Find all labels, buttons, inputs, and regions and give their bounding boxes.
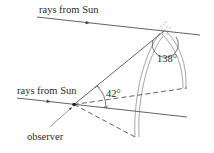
- top-sun-ray: [37, 17, 200, 35]
- top-rays-label: rays from Sun: [39, 4, 99, 15]
- bottom-rays-label: rays from Sun: [17, 85, 77, 96]
- bottom-sun-ray: [17, 98, 187, 117]
- dashed-line-to-arc-bottom: [74, 105, 137, 139]
- angle-42-label: 42°: [106, 88, 121, 99]
- angle-138-label: 138°: [157, 53, 177, 64]
- raindrop-scatter-icon: [158, 21, 170, 34]
- observer-pointer: [50, 108, 71, 127]
- rainbow-geometry-diagram: rays from Sun rays from Sun 42° 138° obs…: [0, 0, 214, 153]
- angle-42-arc: [97, 86, 106, 108]
- observer-label: observer: [27, 131, 64, 142]
- observer-point: [72, 103, 76, 107]
